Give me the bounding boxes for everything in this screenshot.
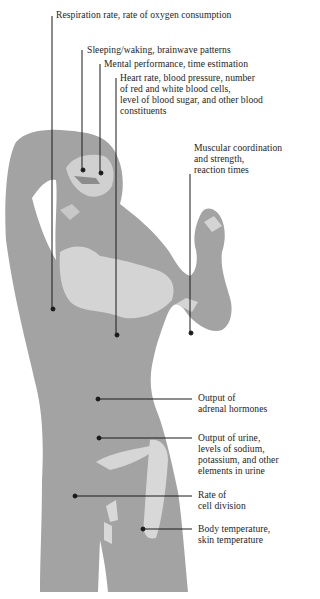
label-temperature: Body temperature, skin temperature: [198, 523, 270, 545]
label-respiration: Respiration rate, rate of oxygen consump…: [56, 9, 231, 20]
label-mental: Mental performance, time estimation: [104, 58, 248, 69]
label-sleeping: Sleeping/waking, brainwave patterns: [87, 44, 231, 55]
label-heart: Heart rate, blood pressure, number of re…: [120, 72, 263, 116]
label-urine: Output of urine, levels of sodium, potas…: [198, 432, 279, 476]
label-adrenal: Output of adrenal hormones: [198, 392, 267, 414]
label-muscular: Muscular coordination and strength, reac…: [194, 142, 282, 175]
label-cell-division: Rate of cell division: [198, 489, 246, 511]
